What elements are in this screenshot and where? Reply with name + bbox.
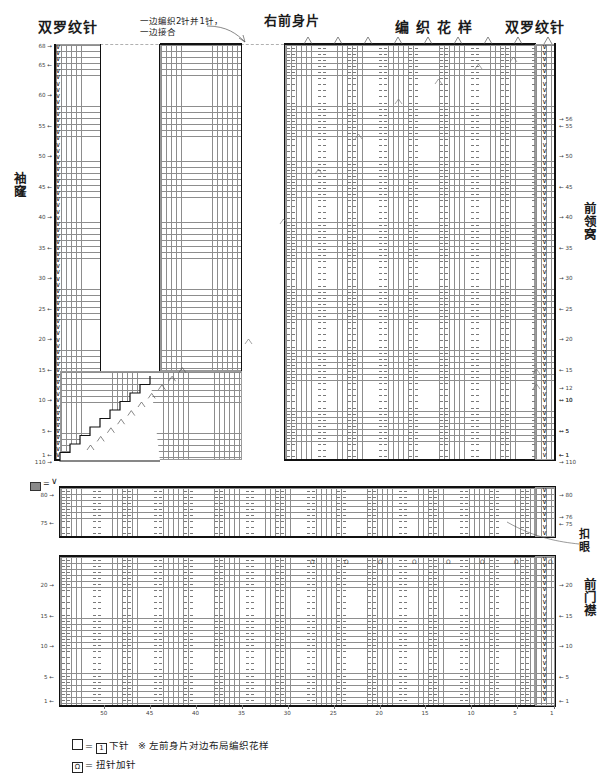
legend-row-twist: Ω= 扭针加针 bbox=[72, 757, 136, 773]
row-tick: 50 → bbox=[38, 153, 52, 159]
column-tick-mark bbox=[196, 705, 197, 709]
row-tick: 15 ← bbox=[40, 613, 54, 619]
column-tick: 45 bbox=[146, 710, 153, 716]
row-tick: ← 55 bbox=[559, 123, 573, 129]
row-tick: 1 ← bbox=[42, 452, 52, 458]
column-tick-mark bbox=[150, 705, 151, 709]
column-tick: 20 bbox=[376, 710, 383, 716]
row-tick: → 20 bbox=[559, 582, 573, 588]
band-left-edge bbox=[59, 487, 60, 537]
row-tick: → 80 bbox=[559, 492, 573, 498]
row-tick: → 50 bbox=[559, 153, 573, 159]
row-tick: → 20 bbox=[559, 336, 573, 342]
row-tick: 80 → bbox=[40, 492, 54, 498]
row-tick: 5 ← bbox=[44, 674, 54, 680]
band-bottom-edge bbox=[59, 536, 556, 538]
row-tick: 30 → bbox=[38, 275, 52, 281]
buttonhole-leader bbox=[505, 520, 585, 550]
svg-text:Ω: Ω bbox=[310, 558, 315, 565]
row-tick: ← 25 bbox=[559, 306, 573, 312]
row-tick: 10 → bbox=[38, 397, 52, 403]
column-ticks: 50454035302520151051 bbox=[0, 708, 605, 722]
row-tick: 60 → bbox=[38, 92, 52, 98]
svg-text:Ω: Ω bbox=[378, 558, 383, 565]
svg-text:Ω: Ω bbox=[548, 558, 553, 565]
svg-text:Ω: Ω bbox=[514, 558, 519, 565]
row-tick: ← 5 bbox=[559, 674, 569, 680]
column-tick-mark bbox=[554, 705, 555, 709]
legend-equals-1: = bbox=[85, 740, 93, 751]
legend-one-box-icon: 1 bbox=[96, 743, 107, 754]
row-tick: 35 ← bbox=[38, 245, 52, 251]
row-tick: 40 → bbox=[38, 214, 52, 220]
row-tick: ← 10 bbox=[559, 397, 573, 403]
row-tick: ← 1 bbox=[559, 698, 569, 704]
legend-equals-2: = bbox=[85, 759, 93, 770]
row-ticks-placket-left: 20 →15 ←10 →5 ←1 ← bbox=[0, 550, 58, 715]
column-tick-mark bbox=[425, 705, 426, 709]
column-tick: 30 bbox=[284, 710, 291, 716]
row-tick: 65 ← bbox=[38, 62, 52, 68]
inner-decrease-marks bbox=[55, 44, 557, 464]
column-tick-mark bbox=[471, 705, 472, 709]
row-tick: 110 → bbox=[35, 459, 52, 465]
row-ticks-right: → 56← 55→ 50← 45→ 40← 35→ 30← 25→ 20← 15… bbox=[556, 0, 605, 470]
legend-row-knit: = 1下针 ※ 左前身片对边布局编织花样 bbox=[72, 738, 269, 754]
svg-text:Ω: Ω bbox=[446, 558, 451, 565]
row-tick: 20 → bbox=[38, 336, 52, 342]
row-tick: → 30 bbox=[559, 275, 573, 281]
row-tick: → 12 bbox=[559, 385, 573, 391]
row-tick: → 56 bbox=[559, 116, 573, 122]
row-tick: 25 ← bbox=[38, 306, 52, 312]
row-ticks-left: 68 →65 ←60 →55 ←50 →45 ←40 →35 ←30 →25 ←… bbox=[0, 0, 56, 470]
band-top-edge bbox=[59, 486, 556, 488]
column-tick: 40 bbox=[192, 710, 199, 716]
column-tick-mark bbox=[334, 705, 335, 709]
column-tick: 1 bbox=[550, 710, 554, 716]
row-tick: → 40 bbox=[559, 214, 573, 220]
leader-line bbox=[205, 22, 255, 44]
legend-twist-label: 扭针加针 bbox=[96, 759, 136, 770]
row-tick: 45 ← bbox=[38, 184, 52, 190]
column-tick-mark bbox=[104, 705, 105, 709]
column-tick: 5 bbox=[513, 710, 517, 716]
legend-mirror-note: 左前身片对边布局编织花样 bbox=[149, 740, 269, 751]
column-tick-mark bbox=[517, 705, 518, 709]
legend-empty-box-icon bbox=[72, 739, 83, 750]
column-tick: 50 bbox=[100, 710, 107, 716]
row-tick: ← 15 bbox=[559, 613, 573, 619]
row-tick: → 5 bbox=[559, 428, 569, 434]
svg-text:Ω: Ω bbox=[344, 558, 349, 565]
grid-buttonhole-band[interactable] bbox=[60, 487, 535, 537]
column-tick-mark bbox=[380, 705, 381, 709]
column-tick-mark bbox=[288, 705, 289, 709]
row-tick: ← 15 bbox=[559, 367, 573, 373]
row-tick: 1 ← bbox=[44, 698, 54, 704]
row-tick: 68 → bbox=[38, 43, 52, 49]
legend-asterisk: ※ bbox=[138, 740, 146, 751]
row-tick: 5 ← bbox=[42, 428, 52, 434]
column-tick-mark bbox=[242, 705, 243, 709]
row-tick: ← 1 bbox=[559, 452, 569, 458]
row-tick: ← 35 bbox=[559, 245, 573, 251]
row-tick: → 110 bbox=[559, 459, 576, 465]
row-tick: 20 → bbox=[40, 582, 54, 588]
row-ticks-band-left: 80 →75 ← bbox=[0, 480, 58, 540]
row-tick: 10 → bbox=[40, 643, 54, 649]
legend-knit-label: 下针 bbox=[109, 740, 129, 751]
row-tick: ← 45 bbox=[559, 184, 573, 190]
svg-text:Ω: Ω bbox=[412, 558, 417, 565]
placket-increase-marks: ΩΩΩΩΩΩΩΩ bbox=[60, 556, 556, 708]
legend-twist-box-icon: Ω bbox=[72, 762, 83, 773]
column-tick: 15 bbox=[421, 710, 428, 716]
column-tick: 10 bbox=[467, 710, 474, 716]
row-tick: 75 ← bbox=[40, 520, 54, 526]
row-ticks-placket-right: → 20← 15→ 10← 5← 1 bbox=[556, 550, 604, 715]
title-right-front-piece: 右前身片 bbox=[264, 10, 320, 29]
row-tick: 15 ← bbox=[38, 367, 52, 373]
svg-text:Ω: Ω bbox=[480, 558, 485, 565]
row-tick: 55 ← bbox=[38, 123, 52, 129]
column-tick: 25 bbox=[330, 710, 337, 716]
row-tick: → 10 bbox=[559, 643, 573, 649]
purl-texture-overlay bbox=[61, 488, 536, 538]
